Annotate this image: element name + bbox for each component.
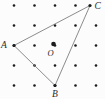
center-point-O-dot [51, 42, 56, 47]
grid-dot [74, 24, 77, 27]
grid-dot [13, 84, 16, 87]
grid-dot [13, 64, 16, 67]
grid-dot [13, 24, 16, 27]
grid-dot [74, 44, 77, 47]
grid-dot [74, 4, 77, 7]
grid-dot [33, 84, 36, 87]
grid-dot [95, 84, 98, 87]
vertex-dot-B [53, 84, 56, 87]
lattice-triangle-svg: A B C O [0, 0, 105, 99]
grid-dot [33, 44, 36, 47]
grid-dot [54, 64, 57, 67]
vertex-dot-A [12, 44, 15, 47]
label-B: B [52, 89, 58, 99]
grid-dot [33, 4, 36, 7]
grid-dot [54, 4, 57, 7]
label-A: A [0, 40, 7, 50]
grid-dot [13, 4, 16, 7]
grid-dot [74, 64, 77, 67]
geometry-diagram: A B C O [0, 0, 105, 99]
grid-dot [33, 24, 36, 27]
grid-dot [95, 24, 98, 27]
grid-dot [74, 84, 77, 87]
grid-dot [95, 64, 98, 67]
vertex-dot-C [88, 4, 91, 7]
label-O: O [48, 48, 54, 58]
grid-dot [95, 44, 98, 47]
label-C: C [95, 1, 102, 11]
